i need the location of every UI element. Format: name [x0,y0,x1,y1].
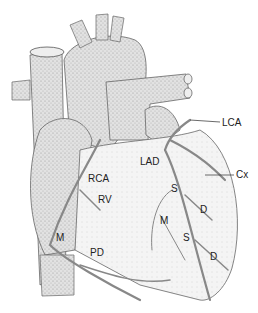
heart-illustration [0,0,258,313]
label-rv: RV [98,195,112,205]
lca-leader [190,120,220,122]
label-lca: LCA [222,118,241,128]
label-marginal-2: M [56,233,64,243]
label-marginal-1: M [160,216,168,226]
label-septal-2: S [183,233,190,243]
label-lad: LAD [140,157,159,167]
label-cx: Cx [236,170,248,180]
label-pd: PD [90,248,104,258]
label-diagonal-2: D [210,252,217,262]
label-septal-1: S [171,184,178,194]
label-rca: RCA [88,174,109,184]
pulmonary-vein-left [12,80,30,100]
inferior-vena-cava [40,255,74,296]
label-diagonal-1: D [200,205,207,215]
